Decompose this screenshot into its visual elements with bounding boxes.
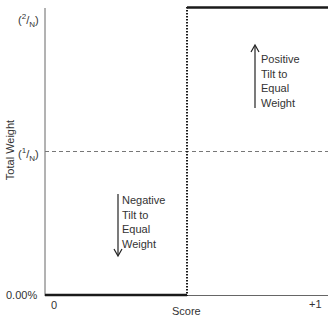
x-axis-title: Score	[172, 305, 201, 317]
arrow-down-icon	[114, 194, 122, 256]
y-tick-zero: 0.00%	[6, 289, 37, 302]
arrow-up-icon	[251, 45, 259, 108]
positive-tilt-annotation: Positive Tilt to Equal Weight	[261, 52, 300, 110]
y-axis-title: Total Weight	[4, 120, 16, 180]
y-tick-1n: (1/N)	[18, 144, 39, 165]
negative-tilt-annotation: Negative Tilt to Equal Weight	[122, 193, 165, 251]
chart-plot	[0, 0, 328, 317]
x-tick-one: +1	[309, 298, 322, 311]
y-tick-2n: (2/N)	[18, 10, 39, 31]
x-tick-zero: 0	[51, 299, 57, 312]
